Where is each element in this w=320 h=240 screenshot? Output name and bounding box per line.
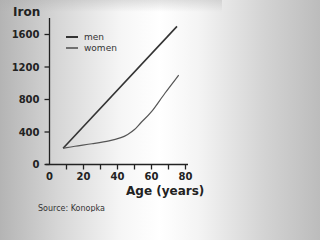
x-tick-label: 20	[77, 171, 91, 182]
x-axis-title: Age (years)	[126, 184, 204, 198]
y-tick-label: 0	[33, 159, 40, 170]
y-axis-title: Iron	[13, 5, 40, 19]
y-tick-label: 1200	[12, 62, 40, 73]
x-tick-label: 80	[179, 171, 193, 182]
x-tick-label: 60	[145, 171, 159, 182]
series-line-men	[63, 26, 177, 148]
x-tick-label: 40	[111, 171, 125, 182]
legend-label-men: men	[84, 32, 104, 42]
y-tick-label: 800	[19, 94, 40, 105]
x-tick-label: 0	[46, 171, 53, 182]
chart: 040080012001600020406080 menwomen Iron A…	[0, 0, 222, 212]
y-tick-label: 1600	[12, 29, 40, 40]
series-group	[63, 26, 179, 148]
source-note: Source: Konopka	[38, 204, 105, 212]
legend: menwomen	[66, 32, 117, 53]
y-tick-label: 400	[19, 127, 40, 138]
legend-label-women: women	[84, 43, 117, 53]
